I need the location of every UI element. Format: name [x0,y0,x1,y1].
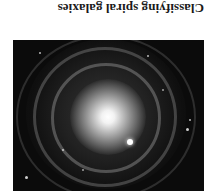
figure-caption: Classifying spiral galaxies [64,0,204,16]
star [25,176,28,179]
star [162,89,164,91]
star [186,128,189,131]
star [189,119,191,121]
galaxy-core [70,79,146,155]
star [62,149,64,151]
star [39,52,41,54]
star [147,55,149,57]
galaxy-photo [13,40,204,191]
bright-star [127,139,133,145]
star [82,169,84,171]
rotated-figure: Classifying spiral galaxies [0,0,204,191]
